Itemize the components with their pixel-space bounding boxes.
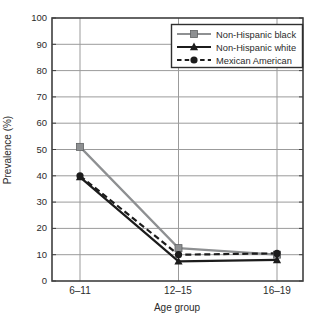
y-tick-label-20: 20 <box>36 222 47 233</box>
x-axis-tick-labels: 6–11 12–15 16–19 <box>69 285 291 296</box>
x-axis-title: Age group <box>154 302 201 313</box>
y-tick-label-100: 100 <box>31 12 47 23</box>
y-axis-tick-labels: 0 10 20 30 40 50 60 70 80 90 100 <box>31 12 47 286</box>
y-tick-label-10: 10 <box>36 249 47 260</box>
legend-label-non-hispanic-black: Non-Hispanic black <box>216 30 296 40</box>
y-axis-title: Prevalence (%) <box>2 116 13 184</box>
data-point-mexican-american <box>273 250 280 257</box>
legend-label-non-hispanic-white: Non-Hispanic white <box>216 43 296 53</box>
y-tick-label-90: 90 <box>36 39 47 50</box>
legend-label-mexican-american: Mexican American <box>216 56 292 66</box>
legend-sample-marker-non-hispanic-black <box>191 31 198 38</box>
y-tick-label-60: 60 <box>36 117 47 128</box>
y-tick-label-50: 50 <box>36 144 47 155</box>
x-tick-label-16-19: 16–19 <box>263 285 291 296</box>
data-point-mexican-american <box>76 172 83 179</box>
legend-sample-marker-mexican-american <box>190 56 197 63</box>
y-tick-label-40: 40 <box>36 170 47 181</box>
chart-figure: 0 10 20 30 40 50 60 70 80 90 100 6–11 12… <box>0 0 317 318</box>
prevalence-line-chart: 0 10 20 30 40 50 60 70 80 90 100 6–11 12… <box>0 0 317 318</box>
x-tick-label-12-15: 12–15 <box>164 285 192 296</box>
y-tick-label-0: 0 <box>42 275 47 286</box>
y-tick-label-70: 70 <box>36 91 47 102</box>
y-tick-label-30: 30 <box>36 196 47 207</box>
legend: Non-Hispanic black Non-Hispanic white Me… <box>172 25 303 68</box>
data-point-non-hispanic-black <box>77 143 84 150</box>
y-tick-label-80: 80 <box>36 65 47 76</box>
data-point-non-hispanic-black <box>175 245 182 252</box>
x-tick-label-6-11: 6–11 <box>69 285 91 296</box>
data-point-mexican-american <box>175 251 182 258</box>
